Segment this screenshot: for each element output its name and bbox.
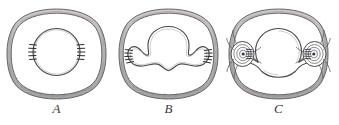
figure-c-drawing <box>222 2 335 106</box>
figure-label-b: B <box>112 101 225 117</box>
figure-a-drawing <box>0 2 113 106</box>
figure-label-a: A <box>0 101 113 117</box>
inner-circle-a <box>33 29 80 76</box>
figure-panel-b: B <box>112 0 225 125</box>
figure-b-drawing <box>112 2 225 106</box>
figure-panel-a: A <box>0 0 113 125</box>
inner-lobed-body-b <box>128 27 209 71</box>
inner-circle-c <box>245 29 312 78</box>
figure-panel-c: C <box>222 0 335 125</box>
figure-label-c: C <box>222 101 335 117</box>
figure-plate: A <box>0 0 339 125</box>
